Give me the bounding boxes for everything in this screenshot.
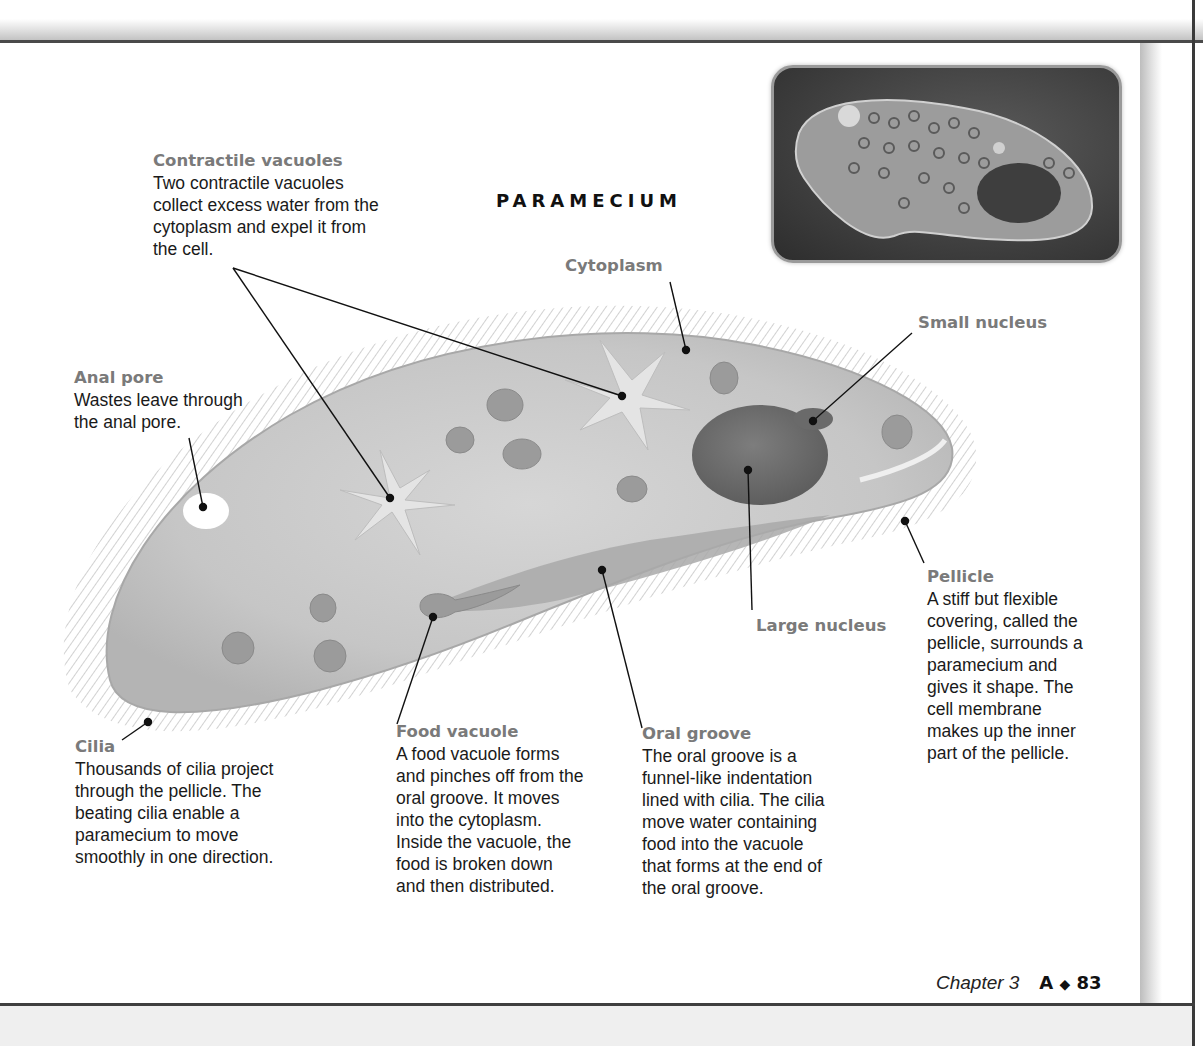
desc-contractile-vacuoles: Two contractile vacuoles collect excess … — [153, 172, 379, 260]
page-number: A ◆ 83 — [1039, 972, 1101, 993]
label-pellicle: Pellicle — [927, 567, 994, 587]
chapter-label: Chapter 3 — [936, 972, 1019, 993]
label-oral-groove: Oral groove — [642, 724, 751, 744]
label-large-nucleus: Large nucleus — [756, 616, 886, 636]
desc-pellicle: A stiff but flexible covering, called th… — [927, 588, 1083, 764]
label-small-nucleus: Small nucleus — [918, 313, 1047, 333]
diamond-icon: ◆ — [1059, 976, 1070, 992]
label-food-vacuole: Food vacuole — [396, 722, 518, 742]
label-cilia: Cilia — [75, 737, 115, 757]
page-num: 83 — [1076, 972, 1101, 993]
anal-pore — [183, 493, 229, 529]
desc-food-vacuole: A food vacuole forms and pinches off fro… — [396, 743, 583, 897]
section-letter: A — [1039, 972, 1053, 993]
desc-oral-groove: The oral groove is a funnel-like indenta… — [642, 745, 825, 899]
micrograph-photo — [771, 65, 1122, 263]
desc-anal-pore: Wastes leave through the anal pore. — [74, 389, 243, 433]
page-footer: Chapter 3 A ◆ 83 — [936, 972, 1102, 994]
desc-cilia: Thousands of cilia project through the p… — [75, 758, 273, 868]
diagram-title: PARAMECIUM — [496, 190, 682, 211]
label-cytoplasm: Cytoplasm — [565, 256, 663, 276]
page-bottom-strip — [0, 1006, 1192, 1046]
label-anal-pore: Anal pore — [74, 368, 164, 388]
label-contractile-vacuoles: Contractile vacuoles — [153, 151, 343, 171]
